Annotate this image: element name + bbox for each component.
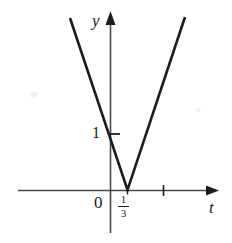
t-axis-arrowhead (206, 186, 219, 196)
origin-label: 0 (94, 194, 103, 211)
y-tick-label-one: 1 (92, 125, 100, 141)
t-axis-label: t (209, 199, 214, 216)
graph-canvas (0, 0, 232, 243)
math-figure: y t 1 0 1 3 (0, 0, 232, 243)
fraction-denominator: 3 (121, 207, 127, 219)
absolute-value-curve (70, 17, 185, 190)
x-tick-label-one-third: 1 3 (118, 194, 129, 219)
fraction-numerator: 1 (121, 194, 127, 206)
y-axis-arrowhead (106, 11, 116, 25)
y-axis-label: y (92, 12, 100, 29)
